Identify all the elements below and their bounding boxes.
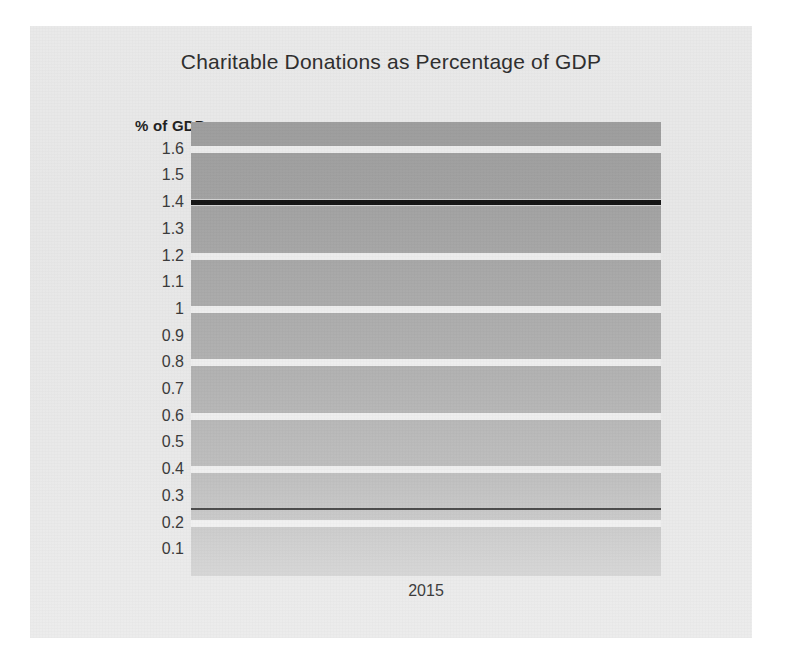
grid-line <box>191 520 661 527</box>
chart: Charitable Donations as Percentage of GD… <box>30 26 752 638</box>
scanned-page: Charitable Donations as Percentage of GD… <box>0 0 792 663</box>
chart-title: Charitable Donations as Percentage of GD… <box>30 50 752 74</box>
grid-line <box>191 359 661 366</box>
grid-line <box>191 253 661 260</box>
y-axis-tick-label: 0.8 <box>126 354 184 370</box>
plot-area <box>191 122 661 576</box>
y-axis-tick-label: 1 <box>126 301 184 317</box>
y-axis-tick-label: 0.5 <box>126 434 184 450</box>
grid-line <box>191 146 661 153</box>
y-axis-tick-label: 1.4 <box>126 194 184 210</box>
y-axis-tick-label: 0.4 <box>126 461 184 477</box>
y-axis-tick-label: 1.3 <box>126 221 184 237</box>
y-axis-tick-label: 1.2 <box>126 248 184 264</box>
y-axis-tick-label: 0.7 <box>126 381 184 397</box>
y-axis-tick-label: 0.3 <box>126 488 184 504</box>
grid-line <box>191 466 661 473</box>
y-axis-tick-label: 1.6 <box>126 141 184 157</box>
grid-line <box>191 413 661 420</box>
y-axis-tick-labels: 1.61.51.41.31.21.110.90.80.70.60.50.40.3… <box>126 122 184 582</box>
data-line-series-2 <box>191 508 661 510</box>
y-axis-tick-label: 1.5 <box>126 167 184 183</box>
y-axis-tick-label: 0.1 <box>126 541 184 557</box>
x-axis-label: 2015 <box>191 582 661 600</box>
y-axis-tick-label: 0.6 <box>126 408 184 424</box>
grid-line <box>191 306 661 313</box>
data-line-series-1 <box>191 200 661 205</box>
y-axis-tick-label: 1.1 <box>126 274 184 290</box>
y-axis-tick-label: 0.2 <box>126 515 184 531</box>
paper-sheet: Charitable Donations as Percentage of GD… <box>30 26 752 638</box>
y-axis-tick-label: 0.9 <box>126 328 184 344</box>
